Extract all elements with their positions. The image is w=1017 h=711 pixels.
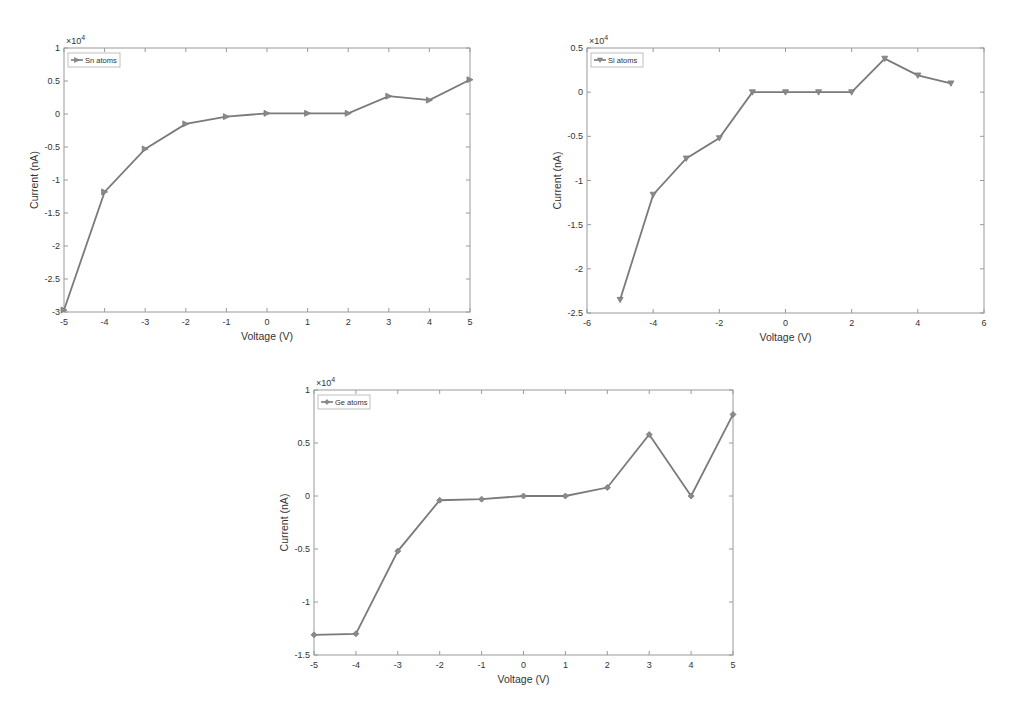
y-tick-label: -2.5 (44, 274, 60, 284)
legend: Ge atoms (318, 395, 370, 409)
y-tick-label: -2.5 (567, 308, 583, 318)
y-tick-label: -1.5 (294, 650, 310, 660)
legend-label: Si atoms (608, 56, 637, 65)
plot-area (314, 390, 733, 655)
y-axis-multiplier: ×104 (316, 376, 335, 388)
legend: Sn atoms (68, 53, 120, 67)
x-tick-label: -3 (141, 317, 149, 327)
y-axis-label: Current (nA) (551, 152, 563, 210)
legend-label: Sn atoms (85, 56, 117, 65)
x-tick-label: 2 (605, 660, 610, 670)
legend: Si atoms (591, 53, 643, 67)
x-tick-label: 4 (915, 318, 920, 328)
x-tick-label: -6 (583, 318, 591, 328)
y-tick-label: -2 (52, 241, 60, 251)
y-axis-multiplier: ×104 (589, 34, 608, 46)
y-tick-label: -1 (52, 175, 60, 185)
x-tick-label: 0 (521, 660, 526, 670)
y-tick-label: -2 (575, 264, 583, 274)
y-tick-label: 0.5 (570, 43, 583, 53)
x-tick-label: 1 (563, 660, 568, 670)
x-tick-label: -4 (101, 317, 109, 327)
x-tick-label: -3 (394, 660, 402, 670)
y-tick-label: 0.5 (297, 438, 310, 448)
x-tick-label: -1 (222, 317, 230, 327)
x-tick-label: 4 (689, 660, 694, 670)
x-tick-label: -4 (352, 660, 360, 670)
x-tick-label: 0 (783, 318, 788, 328)
x-tick-label: -5 (310, 660, 318, 670)
y-tick-label: -1.5 (567, 220, 583, 230)
x-tick-label: 3 (386, 317, 391, 327)
x-tick-label: -2 (436, 660, 444, 670)
plot-area (64, 48, 470, 312)
y-tick-label: 0 (578, 87, 583, 97)
plot-area (587, 48, 984, 313)
x-tick-label: 5 (730, 660, 735, 670)
y-tick-label: 1 (55, 43, 60, 53)
x-tick-label: -4 (649, 318, 657, 328)
y-axis-label: Current (nA) (28, 151, 40, 209)
figure-canvas: -5-4-3-2-1012345-3-2.5-2-1.5-1-0.500.51×… (0, 0, 1017, 711)
y-tick-label: -1 (575, 176, 583, 186)
x-axis-label: Voltage (V) (241, 330, 293, 342)
x-tick-label: 0 (264, 317, 269, 327)
y-tick-label: -1 (302, 597, 310, 607)
legend-label: Ge atoms (335, 398, 368, 407)
x-tick-label: 1 (305, 317, 310, 327)
y-axis-label: Current (nA) (278, 494, 290, 552)
y-axis-multiplier: ×104 (66, 34, 85, 46)
y-tick-label: 0 (305, 491, 310, 501)
x-tick-label: 4 (427, 317, 432, 327)
y-tick-label: 0 (55, 109, 60, 119)
y-tick-label: -0.5 (294, 544, 310, 554)
x-tick-label: 3 (647, 660, 652, 670)
x-tick-label: -2 (715, 318, 723, 328)
x-tick-label: 2 (346, 317, 351, 327)
x-tick-label: 5 (467, 317, 472, 327)
chart-ge-atoms: -5-4-3-2-1012345-1.5-1-0.500.51×104Volta… (278, 376, 736, 685)
x-axis-label: Voltage (V) (760, 331, 812, 343)
y-tick-label: -0.5 (567, 131, 583, 141)
y-tick-label: 1 (305, 385, 310, 395)
x-axis-label: Voltage (V) (498, 673, 550, 685)
y-tick-label: -0.5 (44, 142, 60, 152)
y-tick-label: 0.5 (47, 76, 60, 86)
x-tick-label: 6 (981, 318, 986, 328)
x-tick-label: 2 (849, 318, 854, 328)
x-tick-label: -1 (478, 660, 486, 670)
y-tick-label: -1.5 (44, 208, 60, 218)
x-tick-label: -2 (182, 317, 190, 327)
chart-sn-atoms: -5-4-3-2-1012345-3-2.5-2-1.5-1-0.500.51×… (28, 34, 473, 342)
chart-si-atoms: -6-4-20246-2.5-2-1.5-1-0.500.5×104Voltag… (551, 34, 987, 343)
x-tick-label: -5 (60, 317, 68, 327)
y-tick-label: -3 (52, 307, 60, 317)
